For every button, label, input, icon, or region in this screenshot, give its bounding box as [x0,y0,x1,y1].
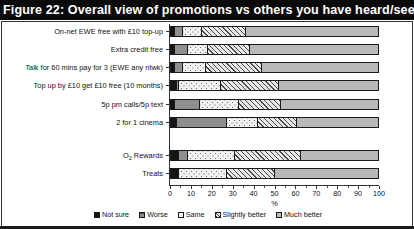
legend-swatch-icon [178,212,184,218]
bar-segment-same [200,100,239,109]
table-row [170,168,379,179]
x-axis-tick-label: 10 [187,189,195,198]
legend-label: Worse [147,210,168,219]
x-axis-tick-label: 70 [312,189,320,198]
table-row [170,26,379,37]
bar-segment-worse [179,151,187,160]
chart-frame: On-net EWE free with £10 top-upExtra cre… [1,21,413,228]
bar-segment-much [262,63,378,72]
bar-segment-much [279,81,378,90]
y-axis-label: Top up by £10 get £10 free (10 months) [34,80,163,91]
table-row [170,150,379,161]
x-axis-tick-label: 80 [333,189,341,198]
bar-segment-slight [235,151,301,160]
x-axis-tick-labels: 0102030405060708090100 [170,189,379,199]
y-axis-label: Treats [142,168,163,179]
legend-swatch-icon [276,212,282,218]
x-axis-minor-tick [285,186,286,188]
legend-label: Much better [284,210,322,219]
x-axis-minor-tick [348,186,349,188]
bar-segment-much [297,118,378,127]
table-row [170,99,379,110]
x-axis-minor-tick [243,186,244,188]
legend-swatch-icon [94,212,100,218]
bar-segment-much [250,45,378,54]
x-axis-tick-label: 30 [229,189,237,198]
bar-segment-slight [202,27,245,36]
legend-label: Slightly better [223,210,267,219]
bar-segment-same [227,118,258,127]
bar-segment-slight [208,45,249,54]
bar-segment-slight [221,81,279,90]
x-axis-tick-label: 60 [291,189,299,198]
legend-item-worse: Worse [139,210,168,219]
bar-segment-same [179,169,227,178]
chart-legend: Not sureWorseSameSlightly betterMuch bet… [2,210,414,219]
legend-swatch-icon [139,212,145,218]
legend-swatch-icon [215,212,221,218]
legend-label: Same [186,210,205,219]
bar-segment-same [179,81,220,90]
bar-segment-same [188,45,209,54]
y-axis-label: Talk for 60 mins pay for 3 (EWE any ntwk… [25,62,163,73]
table-row [170,62,379,73]
bar-segment-worse [175,100,200,109]
x-axis-tick-label: 100 [373,189,385,198]
x-axis-tick-label: 50 [271,189,279,198]
y-axis-labels: On-net EWE free with £10 top-upExtra cre… [2,24,167,186]
legend-item-notsure: Not sure [94,210,129,219]
x-axis-minor-tick [327,186,328,188]
y-axis-label: 5p pm calls/5p text [101,99,163,110]
x-axis-minor-tick [306,186,307,188]
x-axis-minor-tick [222,186,223,188]
bar-segment-slight [239,100,280,109]
x-axis-tick-label: 20 [208,189,216,198]
x-axis-minor-tick [264,186,265,188]
table-row [170,44,379,55]
page-title: Figure 22: Overall view of promotions vs… [0,3,414,17]
y-axis-label: 2 for 1 cinema [116,117,163,128]
stacked-bars [170,24,379,186]
legend-item-same: Same [178,210,205,219]
bottom-rule [0,226,414,229]
x-axis-minor-tick [180,186,181,188]
bar-segment-worse [175,63,183,72]
y-axis-label: Extra credit free [111,44,163,55]
x-axis-minor-tick [201,186,202,188]
legend-item-much: Much better [276,210,322,219]
bar-segment-much [301,151,378,160]
y-axis-label: O2 Rewards [123,150,163,161]
bar-segment-same [188,151,236,160]
bar-segment-slight [227,169,275,178]
bar-segment-slight [206,63,262,72]
x-axis-minor-tick [369,186,370,188]
bar-segment-worse [175,27,183,36]
figure-22-chart: Figure 22: Overall view of promotions vs… [0,0,414,229]
bar-segment-notsure [171,169,179,178]
bar-segment-much [246,27,378,36]
bar-segment-much [281,100,378,109]
table-row [170,117,379,128]
plot-area: On-net EWE free with £10 top-upExtra cre… [2,22,412,227]
x-axis-title: % [170,199,379,208]
bar-segment-notsure [171,151,179,160]
bar-segment-slight [258,118,297,127]
table-row [170,80,379,91]
bar-segment-worse [177,118,227,127]
bar-segment-same [183,63,206,72]
bar-segment-much [275,169,379,178]
figure-title-bar: Figure 22: Overall view of promotions vs… [0,0,414,20]
x-axis-tick-label: 40 [250,189,258,198]
legend-item-slight: Slightly better [215,210,267,219]
x-axis-tick-label: 90 [354,189,362,198]
legend-label: Not sure [102,210,129,219]
bar-segment-worse [175,45,187,54]
y-axis-label: On-net EWE free with £10 top-up [54,26,163,37]
x-axis-tick-label: 0 [168,189,172,198]
bar-segment-same [183,27,202,36]
